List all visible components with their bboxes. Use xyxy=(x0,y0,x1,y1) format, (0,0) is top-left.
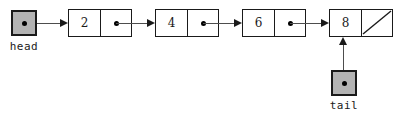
list-node: 8 xyxy=(329,9,393,37)
arrow-head-icon xyxy=(234,19,242,27)
head-pointer-label: head xyxy=(0,40,48,53)
node-next-cell xyxy=(362,10,392,36)
node-value-cell: 4 xyxy=(156,10,188,36)
arrow-head-icon xyxy=(60,19,68,27)
connector-arrow xyxy=(37,19,68,28)
connector-arrow xyxy=(116,19,155,28)
connector-arrow xyxy=(339,37,348,70)
linked-list-diagram: head tail 2 4 6 8 xyxy=(0,0,405,120)
head-pointer-box xyxy=(11,10,37,36)
arrow-shaft xyxy=(290,23,321,24)
arrow-head-icon xyxy=(321,19,329,27)
arrow-shaft xyxy=(37,23,60,24)
connector-arrow xyxy=(203,19,242,28)
node-value-cell: 8 xyxy=(330,10,362,36)
arrow-shaft xyxy=(116,23,147,24)
tail-pointer-box xyxy=(331,70,357,96)
head-pointer-dot xyxy=(22,21,27,26)
arrow-head-icon xyxy=(147,19,155,27)
tail-pointer-label: tail xyxy=(318,99,370,112)
arrow-head-icon xyxy=(339,37,347,45)
null-pointer-slash-icon xyxy=(362,10,392,35)
tail-pointer-dot xyxy=(342,81,347,86)
node-value-cell: 6 xyxy=(243,10,275,36)
node-value-cell: 2 xyxy=(69,10,101,36)
arrow-shaft xyxy=(203,23,234,24)
connector-arrow xyxy=(290,19,329,28)
arrow-shaft xyxy=(343,45,344,70)
